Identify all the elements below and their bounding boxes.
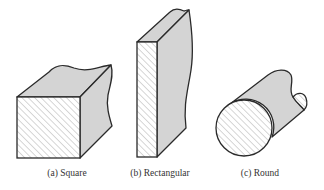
label-round: (c) Round (241, 168, 279, 178)
round-bar-shape (216, 70, 307, 156)
rect-cross-section (137, 42, 157, 157)
square-cross-section (17, 97, 80, 158)
square-bar-shape (17, 65, 112, 158)
label-square: (a) Square (47, 168, 86, 178)
rectangular-plate-shape (137, 9, 192, 157)
label-rectangular: (b) Rectangular (130, 168, 189, 178)
cross-section-diagram (0, 0, 324, 190)
round-cross-section (216, 100, 272, 156)
